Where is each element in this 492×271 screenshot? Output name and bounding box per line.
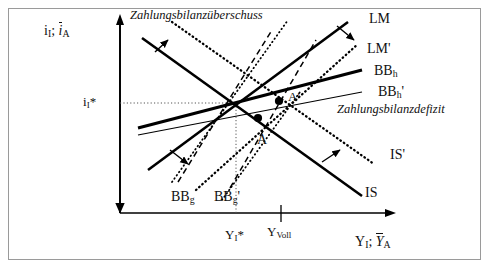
point-a-label: A [257,133,267,147]
curve-label-bb-g-prime-main: BB [214,189,233,204]
curve-label-lm: LM [369,12,390,26]
curve-label-bb-g-prime-mark: ' [238,189,241,204]
curve-label-is: IS [365,186,377,200]
annotation-surplus: Zahlungsbilanzüberschuss [130,9,263,22]
x-axis-label-alt-sub: A [384,239,391,250]
y-tick-label-star: * [90,94,97,109]
y-tick-label-equilibrium: iI* [83,95,96,110]
x-tick-1-star: * [237,227,244,242]
y-axis-label-separator: ; [51,23,55,38]
curve-lm [148,22,348,170]
curve-label-bb-g: BBg [171,190,195,205]
curve-label-bb-h-main: BB [374,63,393,78]
x-axis-arrowhead [385,209,396,217]
x-axis-label-main: Y [355,234,365,249]
curve-label-bb-h-prime: BBh' [378,85,404,100]
curve-label-lm-prime: LM' [367,42,391,56]
figure-canvas: iI; iA iI* YI* YVoll YI; YA Zahlungsbila… [0,0,492,271]
curve-label-is-prime: IS' [390,148,405,162]
point-a-prime-marker [275,97,283,105]
point-a-marker [254,114,262,122]
y-axis-label-alt-sub: A [62,28,69,39]
curve-label-bb-h-sub: h [393,68,398,79]
x-tick-1-main: Y [225,227,234,242]
point-a-prime-label: A' [288,90,300,103]
arrow-is-shift-up [155,40,168,52]
y-axis-label: iI; iA [44,24,70,39]
y-axis-arrowhead [116,14,124,25]
curve-label-bb-h-prime-mark: ' [402,84,405,99]
arrow-lm-shift [337,26,354,40]
arrow-is-shift-down [170,150,188,164]
arrow-is-shift-right [322,150,340,162]
curve-label-bb-g-prime: BBg' [214,190,240,205]
diagram-svg [0,0,492,271]
x-axis-label: YI; YA [355,235,391,250]
annotation-deficit: Zahlungsbilanzdefizit [337,103,445,116]
x-tick-2-main: Y [267,224,276,239]
x-axis-label-separator: ; [368,234,372,249]
x-tick-2-sub: Voll [276,230,291,240]
y-axis-label-alt: i [59,24,63,38]
x-tick-label-equilibrium: YI* [225,228,244,243]
curve-label-bb-g-main: BB [171,189,190,204]
x-axis-label-alt: Y [376,235,384,249]
x-tick-label-yvoll: YVoll [267,225,291,240]
curve-label-bb-h: BBh [374,64,398,79]
curve-label-bb-h-prime-main: BB [378,84,397,99]
curve-label-bb-g-sub: g [190,194,195,205]
